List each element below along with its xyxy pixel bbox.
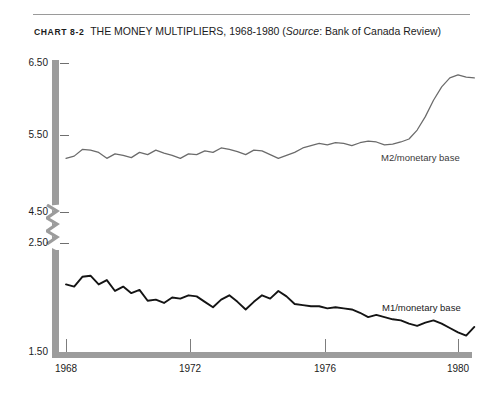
series-plot: [0, 0, 503, 395]
chart-page: CHART 8-2 THE MONEY MULTIPLIERS, 1968-19…: [0, 0, 503, 395]
plot-area: 6.50 5.50 4.50 2.50 1.50 1968 1972 1976 …: [0, 0, 503, 395]
m2-monetary-base-line: [66, 75, 474, 158]
series-label-m2: M2/monetary base: [381, 152, 460, 163]
series-label-m1: M1/monetary base: [382, 302, 461, 313]
